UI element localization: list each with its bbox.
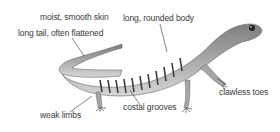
label-clawless-toes: clawless toes [219, 87, 268, 97]
front-leg [200, 64, 226, 86]
label-moist-smooth-skin: moist, smooth skin [40, 12, 109, 22]
salamander-eye [249, 25, 255, 31]
salamander-tail [59, 44, 122, 77]
front-leg-2 [184, 80, 190, 108]
label-long-tail: long tail, often flattened [18, 28, 103, 38]
label-weak-limbs: weak limbs [40, 110, 81, 120]
label-costal-grooves: costal grooves [123, 102, 176, 112]
label-long-rounded-body: long, rounded body [123, 13, 194, 23]
